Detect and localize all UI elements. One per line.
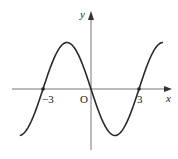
origin-label: O xyxy=(80,94,88,105)
y-axis-arrow-icon xyxy=(88,11,94,20)
y-axis-label: y xyxy=(80,9,85,20)
point-neg3 xyxy=(41,87,45,91)
function-graph xyxy=(0,0,178,159)
point-pos3 xyxy=(137,87,141,91)
tick-label-neg3: −3 xyxy=(42,94,54,105)
tick-label-pos3: 3 xyxy=(137,94,143,105)
x-axis-label: x xyxy=(166,93,171,104)
